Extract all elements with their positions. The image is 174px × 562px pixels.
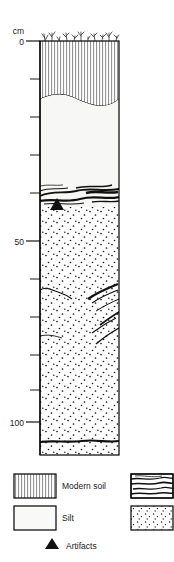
legend-label-artifacts: Artifacts: [66, 541, 97, 551]
legend-item-palaeosols: Palaeosols: [131, 474, 174, 498]
depth-axis: [26, 41, 40, 455]
stratigraphic-column-figure: cm 0 50 100 Modern soil Palaeosols Silt …: [0, 0, 174, 562]
legend-label-modern-soil: Modern soil: [62, 481, 106, 491]
legend-label-silt: Silt: [62, 513, 74, 523]
unit-sandy-silt: [40, 207, 119, 455]
legend-item-artifacts: Artifacts: [45, 538, 97, 551]
legend-item-silt: Silt: [14, 506, 74, 530]
axis-tick-label-50: 50: [15, 237, 25, 247]
legend-item-sandy-silt: Sandy silt: [131, 506, 174, 530]
legend-item-modern-soil: Modern soil: [14, 474, 106, 498]
axis-unit-label: cm: [13, 26, 24, 36]
axis-tick-label-100: 100: [10, 418, 24, 428]
surface-vegetation: [42, 32, 119, 41]
figure-svg: cm 0 50 100 Modern soil Palaeosols Silt …: [0, 0, 174, 562]
axis-tick-label-0: 0: [19, 37, 24, 47]
triangle-icon: [45, 538, 59, 549]
